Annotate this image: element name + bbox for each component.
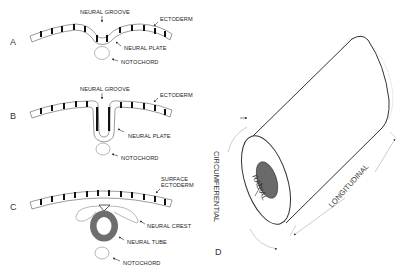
panel-d: D RADIAL CIRCUMFERENTIAL LONGITUDINAL: [212, 31, 403, 257]
label-neural-groove-b: NEURAL GROOVE: [80, 86, 130, 92]
panel-a: A NEURAL GROOVE ECTODERM NEURAL PLATE NO…: [10, 9, 193, 65]
label-circumferential: CIRCUMFERENTIAL: [212, 151, 221, 222]
label-surface-ectoderm-line2: ECTODERM: [161, 182, 194, 188]
panel-b: B NEURAL GROOVE ECTODERM NEURAL PLATE NO…: [10, 86, 193, 161]
figure-canvas: A NEURAL GROOVE ECTODERM NEURAL PLATE NO…: [0, 0, 412, 274]
label-ectoderm-a: ECTODERM: [160, 16, 193, 22]
label-neural-tube: NEURAL TUBE: [127, 239, 167, 245]
panel-c: C SURFACE ECTODERM NEURAL CREST NEURAL T: [10, 176, 194, 266]
label-notochord-a: NOTOCHORD: [121, 59, 158, 65]
label-neural-plate-a: NEURAL PLATE: [124, 45, 167, 51]
label-neural-plate-b: NEURAL PLATE: [128, 133, 171, 139]
longitudinal-arrow-end: [375, 139, 395, 172]
panel-d-letter: D: [215, 247, 222, 257]
label-neural-crest: NEURAL CREST: [147, 223, 192, 229]
panel-c-letter: C: [10, 202, 17, 212]
notochord-c: [95, 247, 109, 259]
circ-arc-bottom: [250, 229, 277, 249]
label-notochord-c: NOTOCHORD: [123, 260, 160, 266]
notochord-a: [95, 47, 110, 60]
label-ectoderm-b: ECTODERM: [160, 92, 193, 98]
panel-b-letter: B: [10, 111, 16, 121]
neural-crest-fold: [99, 205, 110, 211]
panel-a-letter: A: [10, 37, 16, 47]
label-notochord-b: NOTOCHORD: [121, 155, 158, 161]
neural-tube-lumen: [97, 217, 112, 235]
label-neural-groove-a: NEURAL GROOVE: [80, 9, 130, 15]
ectoderm-layer-a: [30, 24, 172, 45]
notochord-b: [96, 143, 110, 155]
